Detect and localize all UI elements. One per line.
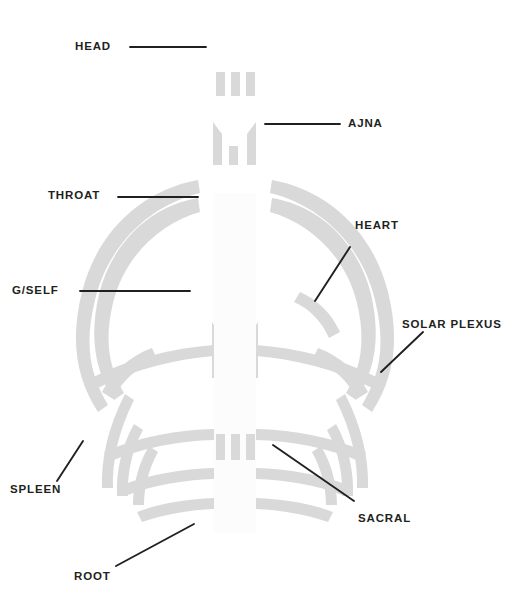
- band-lower-left-1: [104, 429, 214, 462]
- leader-line-spleen: [57, 441, 83, 481]
- central-channel: [214, 193, 256, 533]
- label-root: ROOT: [74, 571, 111, 583]
- leader-line-root: [116, 524, 194, 566]
- label-head: HEAD: [75, 41, 111, 53]
- graph-shapes: [76, 72, 394, 533]
- label-solar-plexus: SOLAR PLEXUS: [402, 319, 502, 331]
- label-ajna: AJNA: [348, 118, 383, 130]
- label-g-self: G/SELF: [12, 285, 59, 297]
- band-lower-left-2: [120, 468, 214, 496]
- label-sacral: SACRAL: [358, 513, 411, 525]
- bodygraph-diagram: HEAD AJNA THROAT HEART G/SELF SOLAR PLEX…: [0, 0, 517, 610]
- band-lower-right-3: [256, 498, 333, 522]
- bodygraph-artwork: [0, 0, 517, 610]
- sacral-center-shape: [216, 434, 255, 460]
- head-center-shape: [216, 72, 255, 96]
- band-lower-left-3: [137, 498, 214, 522]
- label-heart: HEART: [355, 220, 399, 232]
- ajna-center-shape: [213, 122, 256, 165]
- label-spleen: SPLEEN: [10, 484, 61, 496]
- band-lower-right-2: [256, 468, 350, 496]
- leader-line-heart: [315, 247, 350, 301]
- label-throat: THROAT: [48, 190, 100, 202]
